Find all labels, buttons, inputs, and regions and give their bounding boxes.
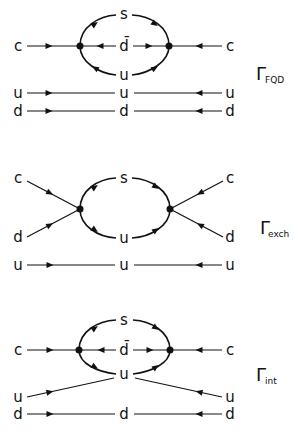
arrow-icon bbox=[196, 108, 203, 114]
loop-bottom-right-arc bbox=[132, 46, 169, 75]
arrow-icon bbox=[196, 347, 203, 353]
d-out-line bbox=[170, 209, 223, 237]
quark-label: d bbox=[13, 228, 23, 246]
arrow-icon bbox=[196, 262, 203, 268]
arrow-icon bbox=[47, 411, 54, 417]
vertex-right bbox=[167, 347, 174, 354]
loop-top-right-arc bbox=[132, 178, 170, 209]
arrow-icon bbox=[195, 388, 203, 395]
arrow-icon bbox=[196, 189, 205, 198]
quark-label: u bbox=[119, 66, 129, 84]
quark-label: u bbox=[225, 388, 235, 406]
quark-diagrams: c c s d̄ u u u u d d d Γ FQD bbox=[0, 0, 295, 431]
arrow-icon bbox=[90, 64, 99, 73]
diagram-fqd: c c s d̄ u u u u d d d Γ FQD bbox=[13, 5, 284, 120]
loop-bottom-left-arc bbox=[80, 209, 116, 238]
arrow-icon bbox=[46, 90, 53, 96]
arrow-icon bbox=[47, 262, 54, 268]
quark-label: s bbox=[120, 169, 128, 187]
u-in-line bbox=[27, 378, 114, 397]
quark-label: u bbox=[119, 365, 129, 383]
loop-top-right-arc bbox=[132, 15, 169, 46]
quark-label: u bbox=[119, 84, 129, 102]
gamma-subscript: exch bbox=[268, 229, 289, 239]
quark-label: u bbox=[13, 388, 23, 406]
gamma-label-int: Γ int bbox=[256, 364, 277, 386]
quark-label: d bbox=[225, 405, 235, 423]
arrow-icon bbox=[146, 43, 153, 49]
vertex-left bbox=[76, 347, 83, 354]
loop-top-left-arc bbox=[80, 178, 116, 209]
quark-label: c bbox=[226, 169, 234, 187]
quark-label: u bbox=[225, 256, 235, 274]
arrow-icon bbox=[97, 43, 104, 49]
loop-top-right-arc bbox=[133, 320, 170, 350]
arrow-icon bbox=[46, 221, 55, 230]
arrow-icon bbox=[46, 43, 53, 49]
quark-label: d bbox=[225, 102, 235, 120]
arrow-icon bbox=[196, 90, 203, 96]
quark-label: d bbox=[13, 102, 23, 120]
quark-label: u bbox=[225, 84, 235, 102]
quark-label: u bbox=[13, 84, 23, 102]
gamma-subscript: int bbox=[265, 376, 277, 386]
quark-label: d bbox=[13, 405, 23, 423]
diagram-int: c c s d̄ u u u d d d Γ int bbox=[13, 311, 277, 423]
arrow-icon bbox=[196, 411, 203, 417]
arrow-icon bbox=[98, 347, 105, 353]
arrow-icon bbox=[46, 388, 54, 395]
arrow-icon bbox=[46, 108, 53, 114]
loop-top-left-arc bbox=[79, 320, 116, 350]
c-in-line bbox=[27, 181, 80, 209]
loop-bottom-left-arc bbox=[79, 350, 116, 374]
vertex-right bbox=[166, 43, 173, 50]
arrow-icon bbox=[147, 347, 154, 353]
gamma-label-exch: Γ exch bbox=[260, 217, 289, 239]
vertex-right bbox=[167, 206, 174, 213]
arrow-icon bbox=[46, 189, 55, 198]
vertex-left bbox=[77, 43, 84, 50]
diagram-exch: c d c d s u u u u Γ exch bbox=[13, 169, 289, 274]
quark-label: d̄ bbox=[119, 340, 129, 359]
loop-bottom-right-arc bbox=[132, 209, 170, 238]
quark-label: u bbox=[13, 256, 23, 274]
arrow-icon bbox=[151, 363, 160, 372]
quark-label: u bbox=[119, 229, 129, 247]
vertex-left bbox=[77, 206, 84, 213]
u-out-line bbox=[135, 378, 222, 397]
loop-bottom-left-arc bbox=[80, 46, 116, 75]
quark-label: c bbox=[226, 37, 234, 55]
gamma-subscript: FQD bbox=[265, 75, 284, 85]
quark-label: d bbox=[119, 405, 129, 423]
quark-label: s bbox=[120, 5, 128, 23]
arrow-icon bbox=[196, 43, 203, 49]
quark-label: s bbox=[120, 311, 128, 329]
quark-label: c bbox=[14, 169, 22, 187]
quark-label: d̄ bbox=[119, 36, 129, 55]
arrow-icon bbox=[196, 221, 205, 230]
d-in-line bbox=[27, 209, 80, 237]
loop-top-left-arc bbox=[80, 15, 116, 46]
quark-label: d bbox=[119, 102, 129, 120]
quark-label: c bbox=[226, 341, 234, 359]
gamma-label-fqd: Γ FQD bbox=[256, 63, 284, 85]
quark-label: c bbox=[14, 341, 22, 359]
quark-label: u bbox=[119, 256, 129, 274]
loop-bottom-right-arc bbox=[133, 350, 170, 374]
arrow-icon bbox=[47, 347, 54, 353]
quark-label: c bbox=[14, 37, 22, 55]
quark-label: d bbox=[225, 228, 235, 246]
c-out-line bbox=[170, 181, 223, 209]
